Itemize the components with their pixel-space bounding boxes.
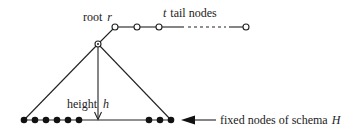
height-label: heighth	[67, 97, 109, 111]
fixed-nodes-label: fixed nodes of schemaH	[220, 113, 342, 127]
fixed-node	[21, 117, 28, 124]
fixed-node	[43, 117, 50, 124]
tail-node-last	[243, 24, 249, 30]
fixed-node	[32, 117, 39, 124]
tail-node-2	[156, 24, 162, 30]
fixed-node	[76, 117, 83, 124]
fixed-pointer-arrow-head	[181, 116, 195, 125]
fixed-node	[65, 117, 72, 124]
fixed-node	[54, 117, 61, 124]
tail-label: ttail nodes	[163, 6, 217, 20]
fixed-node	[168, 117, 175, 124]
fixed-nodes-right	[146, 117, 175, 124]
fixed-node	[146, 117, 153, 124]
root-node	[112, 24, 118, 30]
hub-root-edge	[100, 29, 113, 42]
root-label: rootr	[83, 10, 112, 24]
tail-node-1	[134, 24, 140, 30]
hub-node-dot	[97, 43, 99, 45]
schema-tree-diagram: rootr ttail nodes heighth fixed nodes of…	[0, 0, 351, 136]
fixed-node	[157, 117, 164, 124]
